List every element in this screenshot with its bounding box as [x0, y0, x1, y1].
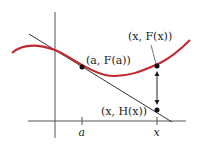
leader-line [151, 45, 156, 64]
point-x-Fx [155, 64, 160, 69]
label-point-a: (a, F(a)) [86, 54, 131, 67]
point-x-Hx [155, 108, 160, 113]
tangent-approximation-diagram: (a, F(a)) (x, F(x)) (x, H(x)) a x [0, 0, 197, 147]
tick-label-a: a [79, 126, 86, 139]
tick-label-x: x [154, 126, 161, 139]
label-point-x-line: (x, H(x)) [101, 105, 147, 118]
arrowhead-down-icon [155, 100, 160, 105]
point-a-Fa [80, 65, 85, 70]
arrowhead-up-icon [155, 71, 160, 76]
label-point-x-curve: (x, F(x)) [128, 30, 172, 43]
